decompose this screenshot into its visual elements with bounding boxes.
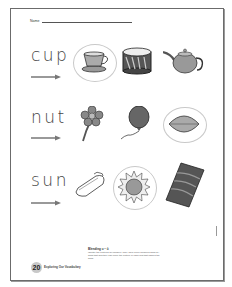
- arrow-icon: [31, 135, 61, 141]
- arrow-icon: [31, 74, 61, 80]
- name-label: Name: [30, 19, 39, 23]
- sun-icon[interactable]: [117, 170, 151, 204]
- rug-icon[interactable]: [165, 162, 205, 208]
- word-nut: nut: [31, 107, 67, 127]
- drum-icon[interactable]: [122, 47, 152, 75]
- teapot-icon[interactable]: [163, 46, 207, 76]
- flower-icon[interactable]: [80, 106, 104, 142]
- book-title: Exploring Our Vocabulary: [44, 265, 81, 269]
- soap-icon[interactable]: [74, 170, 106, 198]
- balloon-icon[interactable]: [120, 106, 150, 140]
- nut-icon[interactable]: [168, 114, 200, 134]
- name-line[interactable]: [42, 19, 132, 23]
- footer-instructions: Identify the pictures for children. They…: [88, 251, 163, 260]
- margin-mark: [216, 226, 217, 236]
- name-field[interactable]: Name: [30, 19, 132, 23]
- word-cup: cup: [31, 45, 69, 65]
- page-number: 20: [31, 262, 42, 273]
- teacup-icon[interactable]: [80, 50, 110, 74]
- word-sun: sun: [31, 170, 69, 190]
- arrow-icon: [31, 200, 61, 206]
